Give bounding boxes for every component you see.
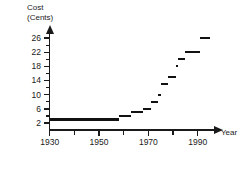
- step-segment: [161, 83, 168, 85]
- step-segment: [50, 118, 119, 120]
- x-tick-minor: [172, 131, 173, 135]
- y-tick-minor: [46, 73, 50, 74]
- y-tick-label: 22: [19, 48, 41, 57]
- step-segment: [178, 58, 185, 60]
- y-tick-minor: [46, 101, 50, 102]
- y-tick-minor: [46, 87, 50, 88]
- x-tick-major: [98, 131, 99, 136]
- step-segment: [119, 115, 131, 117]
- y-tick-label: 18: [19, 62, 41, 71]
- x-tick-label: 1950: [82, 138, 116, 147]
- y-tick-label: 26: [19, 34, 41, 43]
- x-tick-label: 1930: [33, 138, 67, 147]
- x-tick-major: [148, 131, 149, 136]
- x-axis-arrow-icon: [214, 126, 223, 134]
- step-chart: Cost (Cents) Year 261014182226 193019501…: [0, 0, 251, 169]
- y-tick-minor: [46, 59, 50, 60]
- x-axis-title: Year: [221, 128, 237, 138]
- y-tick-major: [44, 122, 50, 123]
- step-segment: [158, 94, 160, 96]
- x-tick-label: 1970: [131, 138, 165, 147]
- x-tick-label: 1990: [181, 138, 215, 147]
- step-segment: [176, 65, 178, 67]
- step-segment: [185, 51, 200, 53]
- y-axis-title: Cost (Cents): [27, 3, 53, 22]
- step-segment: [143, 108, 150, 110]
- step-segment: [131, 111, 143, 113]
- y-tick-label: 2: [19, 119, 41, 128]
- y-axis-arrow-icon: [46, 25, 54, 34]
- x-tick-minor: [74, 131, 75, 135]
- y-tick-major: [44, 66, 50, 67]
- y-tick-label: 14: [19, 76, 41, 85]
- y-tick-major: [44, 80, 50, 81]
- y-tick-label: 10: [19, 91, 41, 100]
- y-tick-minor: [46, 115, 50, 116]
- y-tick-label: 6: [19, 105, 41, 114]
- x-tick-minor: [123, 131, 124, 135]
- y-tick-major: [44, 94, 50, 95]
- x-tick-major: [49, 131, 50, 136]
- step-segment: [200, 37, 210, 39]
- y-tick-major: [44, 108, 50, 109]
- y-tick-minor: [46, 45, 50, 46]
- y-tick-major: [44, 52, 50, 53]
- x-tick-major: [197, 131, 198, 136]
- step-segment: [168, 76, 175, 78]
- step-segment: [151, 101, 158, 103]
- y-tick-major: [44, 37, 50, 38]
